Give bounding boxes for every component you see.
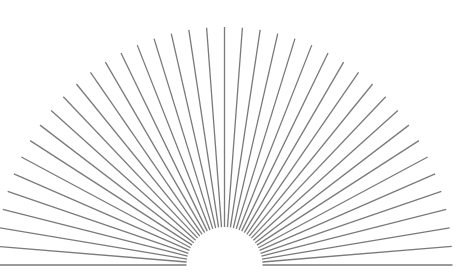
sunburst-diagram xyxy=(0,0,461,272)
ray-line xyxy=(21,157,190,248)
ray-line xyxy=(51,110,195,240)
ray-line xyxy=(137,45,210,230)
ray-line xyxy=(244,62,343,233)
ray-line xyxy=(30,141,192,246)
ray-line xyxy=(258,157,427,248)
ray-line xyxy=(249,84,372,236)
ray-line xyxy=(253,110,397,240)
ray-line xyxy=(105,62,204,233)
ray-line xyxy=(242,53,328,231)
ray-line xyxy=(260,174,436,251)
ray-group xyxy=(0,27,453,265)
ray-line xyxy=(121,53,207,231)
ray-line xyxy=(76,84,199,236)
ray-line xyxy=(14,174,190,251)
ray-line xyxy=(257,141,419,246)
ray-line xyxy=(239,45,312,230)
